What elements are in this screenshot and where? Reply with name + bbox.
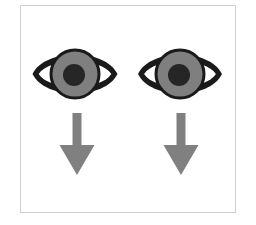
pictogram-stage: Two eyes above two downward arrows — [0, 0, 256, 225]
left-arrow-group — [60, 113, 95, 175]
arrow-down-icon — [164, 113, 199, 175]
right-eye-pupil — [168, 64, 190, 86]
left-eye-pupil — [63, 64, 85, 86]
right-arrow-group — [164, 113, 199, 175]
arrow-down-icon — [60, 113, 95, 175]
left-eye-group — [33, 50, 118, 98]
eyes-down-pictogram — [0, 0, 256, 225]
right-eye-group — [138, 50, 222, 98]
